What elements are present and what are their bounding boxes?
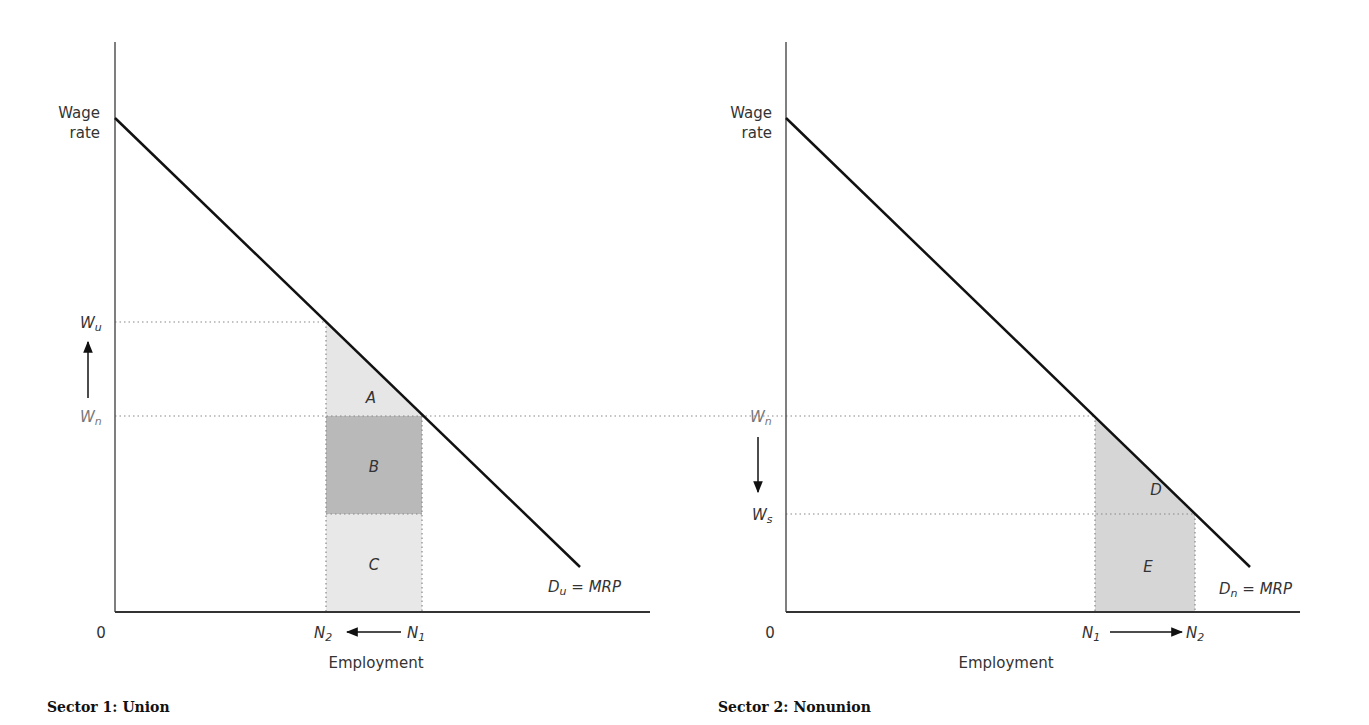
panel-caption-nonunion: Sector 2: Nonunion [718, 699, 871, 715]
emp-label-n1: N1 [407, 624, 425, 644]
wage-label-ws: Ws [752, 506, 773, 526]
area-b-label: B [369, 458, 379, 476]
union-nonunion-wage-diagram: Wage rate Wu Wn A B C Du = MRP 0 N2 N1 E… [0, 0, 1369, 725]
y-axis-label: Wage [58, 104, 100, 122]
emp-label-n2: N2 [1186, 624, 1204, 644]
origin-label: 0 [96, 624, 106, 642]
wage-label-wu: Wu [80, 314, 102, 334]
panel-nonunion: Wage rate Wn Ws D E Dn = MRP 0 N1 N2 Emp… [718, 42, 1300, 715]
wage-label-wn: Wn [750, 408, 772, 428]
x-axis-label: Employment [328, 654, 423, 672]
y-axis-label: Wage [730, 104, 772, 122]
panel-caption-union: Sector 1: Union [47, 699, 170, 715]
dotted-guides [115, 322, 786, 612]
area-e-label: E [1143, 558, 1153, 576]
emp-label-n1: N1 [1082, 624, 1100, 644]
x-axis-label: Employment [958, 654, 1053, 672]
area-a-label: A [365, 389, 376, 407]
y-axis-label-2: rate [742, 124, 772, 142]
wage-label-wn: Wn [80, 408, 102, 428]
area-d-label: D [1150, 481, 1162, 499]
demand-curve-nonunion [786, 118, 1250, 567]
area-c-label: C [369, 556, 380, 574]
demand-label-nonunion: Dn = MRP [1219, 580, 1293, 600]
demand-label-union: Du = MRP [548, 578, 622, 598]
y-axis-label-2: rate [70, 124, 100, 142]
panel-union: Wage rate Wu Wn A B C Du = MRP 0 N2 N1 E… [47, 42, 786, 715]
emp-label-n2: N2 [314, 624, 332, 644]
origin-label: 0 [765, 624, 775, 642]
